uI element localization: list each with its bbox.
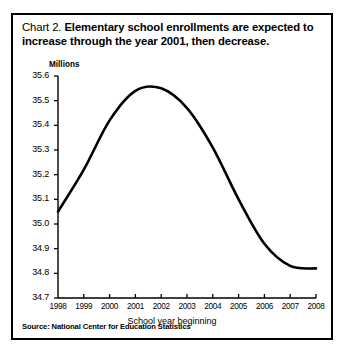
x-axis-tick-label: 2008: [299, 302, 333, 311]
y-axis-tick-label: 34.9: [19, 243, 49, 253]
y-axis-tick-label: 35.0: [19, 218, 49, 228]
y-axis-tick-label: 35.6: [19, 70, 49, 80]
enrollment-line-series: [58, 86, 316, 268]
plot-area: Millions 35.635.535.435.335.235.135.034.…: [13, 15, 331, 338]
source-note: Source: National Center for Education St…: [22, 322, 191, 331]
y-axis-tick-label: 34.7: [19, 292, 49, 302]
y-axis-tick-label: 35.5: [19, 95, 49, 105]
axes: [54, 76, 316, 298]
y-axis-tick-label: 35.3: [19, 144, 49, 154]
chart-figure: Chart 2. Elementary school enrollments a…: [11, 13, 333, 340]
y-axis-unit-label: Millions: [49, 60, 79, 69]
y-axis-tick-label: 35.2: [19, 169, 49, 179]
y-axis-tick-label: 35.1: [19, 193, 49, 203]
y-axis-tick-label: 34.8: [19, 267, 49, 277]
y-axis-tick-label: 35.4: [19, 119, 49, 129]
